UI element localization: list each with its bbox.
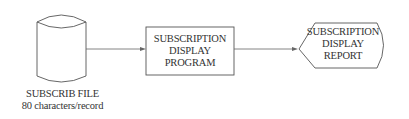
program-label-line3: PROGRAM xyxy=(146,57,234,69)
report-label-line2: DISPLAY xyxy=(300,38,386,50)
file-caption: SUBSCRIB FILE 80 characters/record xyxy=(10,88,115,112)
disk-storage-symbol xyxy=(37,15,86,82)
report-label-line1: SUBSCRIPTION xyxy=(300,26,386,38)
program-label: SUBSCRIPTION DISPLAY PROGRAM xyxy=(146,33,234,69)
report-label: SUBSCRIPTION DISPLAY REPORT xyxy=(300,26,386,62)
file-caption-name: SUBSCRIB FILE xyxy=(10,88,115,100)
file-caption-record-length: 80 characters/record xyxy=(10,100,115,112)
arrow-file-to-program xyxy=(86,47,146,51)
program-label-line1: SUBSCRIPTION xyxy=(146,33,234,45)
report-label-line3: REPORT xyxy=(300,50,386,62)
arrow-program-to-report xyxy=(234,47,298,51)
program-label-line2: DISPLAY xyxy=(146,45,234,57)
